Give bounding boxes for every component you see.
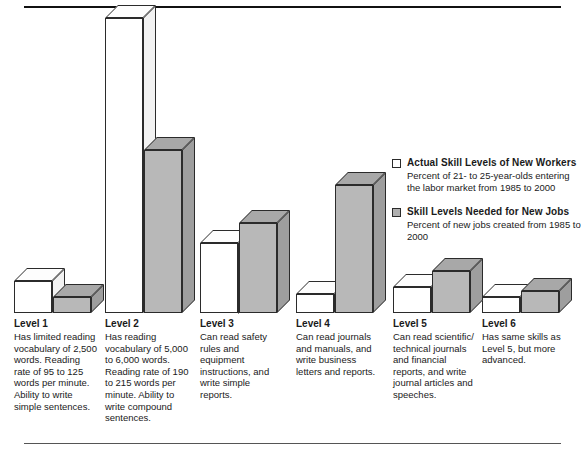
legend-item-needed-subtitle: Percent of new jobs created from 1985 to… — [407, 219, 582, 242]
bar-actual — [14, 281, 52, 313]
level-caption-body: Has limited reading vocabulary of 2,500 … — [14, 331, 98, 412]
white-swatch-icon — [392, 159, 401, 168]
bar-needed — [432, 271, 470, 313]
level-caption-body: Can read journals and manuals, and write… — [296, 331, 380, 377]
bar-needed — [335, 185, 373, 313]
bar-actual — [393, 287, 431, 313]
bar-front-face — [393, 287, 431, 313]
bar-needed — [239, 223, 277, 313]
bar-front-face — [335, 185, 373, 313]
level-caption-5: Level 5Can read scientific/ technical jo… — [393, 318, 477, 401]
level-caption-2: Level 2Has reading vocabulary of 5,000 t… — [105, 318, 189, 424]
legend-item-needed-title: Skill Levels Needed for New Jobs — [407, 206, 569, 218]
level-caption-4: Level 4Can read journals and manuals, an… — [296, 318, 380, 377]
bar-side-face — [373, 172, 386, 313]
legend-item-actual-title: Actual Skill Levels of New Workers — [407, 157, 576, 169]
level-caption-body: Has same skills as Level 5, but more adv… — [482, 331, 566, 366]
legend-item-needed: Skill Levels Needed for New Jobs Percent… — [392, 206, 582, 242]
level-caption-title: Level 6 — [482, 318, 566, 330]
level-caption-title: Level 3 — [200, 318, 284, 330]
level-caption-title: Level 1 — [14, 318, 98, 330]
bar-front-face — [53, 297, 91, 313]
level-captions: Level 1Has limited reading vocabulary of… — [0, 318, 585, 448]
level-caption-title: Level 2 — [105, 318, 189, 330]
level-caption-body: Can read scientific/ technical journals … — [393, 331, 477, 401]
bar-front-face — [432, 271, 470, 313]
level-caption-body: Has reading vocabulary of 5,000 to 6,000… — [105, 331, 189, 424]
skill-levels-figure: Actual Skill Levels of New Workers Perce… — [0, 0, 585, 454]
level-caption-6: Level 6Has same skills as Level 5, but m… — [482, 318, 566, 366]
level-caption-body: Can read safety rules and equipment inst… — [200, 331, 284, 401]
legend-item-actual-subtitle: Percent of 21- to 25-year-olds entering … — [407, 170, 582, 193]
bar-actual — [296, 294, 334, 313]
bar-front-face — [200, 243, 238, 314]
bar-needed — [521, 291, 559, 313]
level-caption-1: Level 1Has limited reading vocabulary of… — [14, 318, 98, 412]
bar-front-face — [482, 297, 520, 313]
legend-item-actual: Actual Skill Levels of New Workers Perce… — [392, 157, 582, 193]
bar-actual — [200, 243, 238, 314]
bar-needed — [144, 150, 182, 313]
bar-side-face — [277, 210, 290, 313]
bar-actual — [105, 18, 143, 313]
bar-front-face — [14, 281, 52, 313]
level-caption-3: Level 3Can read safety rules and equipme… — [200, 318, 284, 401]
bar-needed — [53, 297, 91, 313]
bar-front-face — [144, 150, 182, 313]
bar-front-face — [296, 294, 334, 313]
level-caption-title: Level 5 — [393, 318, 477, 330]
bar-front-face — [239, 223, 277, 313]
grey-swatch-icon — [392, 208, 401, 217]
bar-actual — [482, 297, 520, 313]
bar-front-face — [521, 291, 559, 313]
bar-front-face — [105, 18, 143, 313]
level-caption-title: Level 4 — [296, 318, 380, 330]
chart-legend: Actual Skill Levels of New Workers Perce… — [392, 157, 582, 255]
bar-side-face — [182, 137, 195, 313]
